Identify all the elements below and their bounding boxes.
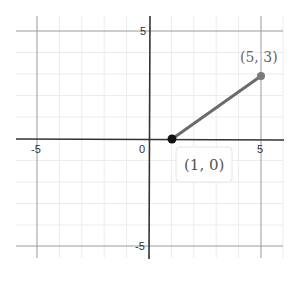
point-start[interactable]: [168, 135, 177, 144]
origin-label: 0: [139, 143, 145, 155]
point-start-label: (1, 0): [184, 156, 224, 174]
x-tick-label-5: 5: [257, 143, 263, 155]
point-end[interactable]: [257, 72, 265, 80]
x-tick-label-neg5: -5: [31, 143, 41, 155]
point-end-label: (5, 3): [240, 49, 278, 65]
y-tick-label-5: 5: [140, 25, 146, 37]
y-tick-label-neg5: -5: [135, 240, 145, 252]
y-axis: [149, 16, 150, 259]
coordinate-plane: -5 0 5 5 -5 (5, 3) (1, 0): [0, 0, 299, 281]
